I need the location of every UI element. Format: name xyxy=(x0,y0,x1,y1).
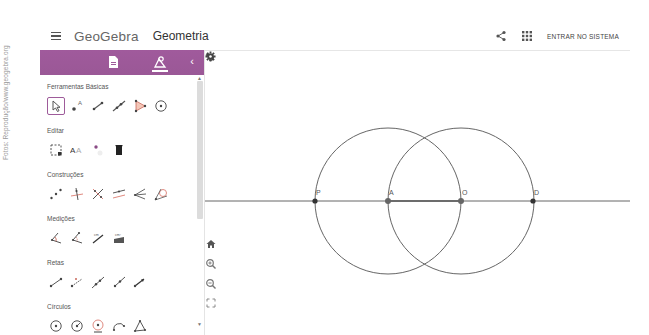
move-tool[interactable] xyxy=(47,97,65,115)
angle-bisector-tool[interactable] xyxy=(131,185,149,203)
point-icon: A xyxy=(70,99,84,113)
point-label-d: D xyxy=(534,189,539,196)
angle-icon xyxy=(49,231,63,245)
tool-categories: Ferramentas Básicas A Editar AA Construç… xyxy=(40,75,204,335)
category-label: Editar xyxy=(47,127,204,137)
point-label-a: A xyxy=(389,189,394,196)
circle-three-points-tool[interactable] xyxy=(131,317,149,335)
category-label: Ferramentas Básicas xyxy=(47,83,204,93)
settings-icon[interactable] xyxy=(205,51,216,62)
point-o[interactable] xyxy=(458,198,464,204)
tool-row-constructions xyxy=(47,185,204,203)
show-hide-label-tool[interactable] xyxy=(89,141,107,159)
point-tool[interactable]: A xyxy=(68,97,86,115)
panel-tab-bar: ‹ xyxy=(40,50,204,75)
tools-icon[interactable] xyxy=(153,55,167,69)
distance-tool[interactable]: cm xyxy=(89,229,107,247)
collapse-panel-icon[interactable]: ‹ xyxy=(190,55,194,67)
vector-icon xyxy=(133,275,147,289)
point-d[interactable] xyxy=(530,198,535,203)
category-label: Construções xyxy=(47,171,204,181)
document-icon[interactable] xyxy=(106,55,120,69)
compass-icon xyxy=(91,319,105,333)
show-hide-icon xyxy=(91,143,105,157)
category-label: Círculos xyxy=(47,303,204,313)
tools-panel: ‹ Ferramentas Básicas A Editar AA Constr… xyxy=(40,50,204,335)
tool-row-lines xyxy=(47,273,204,291)
bisector-icon xyxy=(91,187,105,201)
app-header: GeoGebra Geometria ENTRAR NO SISTEMA xyxy=(40,22,649,50)
polygon-icon xyxy=(133,99,147,113)
ray-icon xyxy=(112,275,126,289)
parallel-icon xyxy=(112,187,126,201)
zoom-out-icon[interactable] xyxy=(205,278,217,290)
line-icon xyxy=(91,275,105,289)
angle-tool[interactable] xyxy=(47,229,65,247)
scroll-down-arrow[interactable]: ▼ xyxy=(197,321,202,327)
menu-icon[interactable] xyxy=(51,32,61,40)
fullscreen-icon[interactable] xyxy=(205,297,217,309)
segment-icon xyxy=(49,275,63,289)
ray-tool[interactable] xyxy=(110,273,128,291)
text-style-tool[interactable]: AA xyxy=(68,141,86,159)
svg-text:A: A xyxy=(76,146,82,155)
tangents-tool[interactable] xyxy=(152,185,170,203)
compass-tool[interactable] xyxy=(89,317,107,335)
delete-tool[interactable] xyxy=(110,141,128,159)
tool-row-basic: A xyxy=(47,97,204,115)
share-icon[interactable] xyxy=(495,30,507,42)
cursor-arrow-icon xyxy=(49,99,63,113)
perpendicular-bisector-tool[interactable] xyxy=(89,185,107,203)
parallel-line-tool[interactable] xyxy=(110,185,128,203)
area-icon: cm² xyxy=(112,231,126,245)
line-tool[interactable] xyxy=(89,273,107,291)
point-a[interactable] xyxy=(385,198,391,204)
photo-credit: Fotos: Reprodução/www.geogebra.org xyxy=(2,10,18,160)
svg-text:A: A xyxy=(78,100,82,106)
circle-center-point-tool[interactable] xyxy=(47,317,65,335)
select-objects-tool[interactable] xyxy=(47,141,65,159)
midpoint-tool[interactable] xyxy=(47,185,65,203)
text-style-icon: AA xyxy=(70,143,84,157)
tool-row-measurements: cm cm² xyxy=(47,229,204,247)
circle-icon xyxy=(49,319,63,333)
segment-fixed-icon xyxy=(70,275,84,289)
tool-row-edit: AA xyxy=(47,141,204,159)
line-icon xyxy=(112,99,126,113)
tangents-icon xyxy=(154,187,168,201)
vector-tool[interactable] xyxy=(131,273,149,291)
point-p[interactable] xyxy=(312,198,317,203)
category-label: Retas xyxy=(47,259,204,269)
angle-bisector-icon xyxy=(133,187,147,201)
photo-credit-text: Fotos: Reprodução/www.geogebra.org xyxy=(2,45,9,160)
distance-icon: cm xyxy=(91,231,105,245)
login-button[interactable]: ENTRAR NO SISTEMA xyxy=(547,33,619,40)
geometry-canvas[interactable] xyxy=(205,51,630,335)
segment-fixed-length-tool[interactable] xyxy=(68,273,86,291)
point-label-p: P xyxy=(316,189,321,196)
segment-tool[interactable] xyxy=(89,97,107,115)
category-label: Medições xyxy=(47,215,204,225)
home-icon[interactable] xyxy=(205,238,217,250)
semicircle-tool[interactable] xyxy=(110,317,128,335)
graphics-view[interactable]: P A O D xyxy=(205,51,630,335)
perpendicular-line-tool[interactable] xyxy=(68,185,86,203)
area-tool[interactable]: cm² xyxy=(110,229,128,247)
triangle-points-icon xyxy=(133,319,147,333)
circle-icon xyxy=(154,99,168,113)
circle-center-point-tool[interactable] xyxy=(152,97,170,115)
zoom-in-icon[interactable] xyxy=(205,258,217,270)
circle-center-radius-tool[interactable] xyxy=(68,317,86,335)
brand-logo: GeoGebra xyxy=(74,29,139,44)
svg-text:cm: cm xyxy=(94,233,99,237)
panel-scrollbar[interactable] xyxy=(197,81,203,219)
polygon-tool[interactable] xyxy=(131,97,149,115)
selection-box-icon xyxy=(49,143,63,157)
apps-grid-icon[interactable] xyxy=(521,30,533,42)
perpendicular-icon xyxy=(70,187,84,201)
line-tool[interactable] xyxy=(110,97,128,115)
midpoint-icon xyxy=(49,187,63,201)
angle-given-size-tool[interactable] xyxy=(68,229,86,247)
segment-tool[interactable] xyxy=(47,273,65,291)
arc-icon xyxy=(112,319,126,333)
